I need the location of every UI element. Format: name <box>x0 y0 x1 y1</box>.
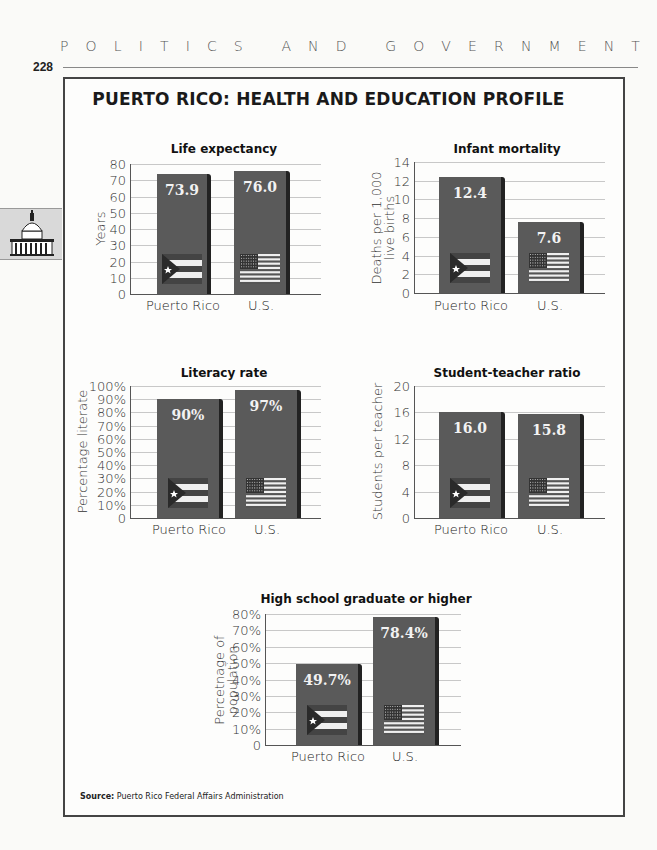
chart-title: Infant mortality <box>453 142 560 156</box>
x-category-label: U.S. <box>537 298 563 313</box>
x-category-label: U.S. <box>392 749 418 764</box>
bar-value-label: 76.0 <box>234 179 286 195</box>
source-label: Source: <box>80 792 114 801</box>
y-axis-label: Percetnage ofpopulation <box>213 610 239 750</box>
page-number: 228 <box>33 60 53 74</box>
x-category-label: Puerto Rico <box>152 522 226 537</box>
bar-puerto-rico: 90% <box>157 399 223 518</box>
running-head-letter: G <box>385 38 396 54</box>
us-flag-icon <box>240 254 280 284</box>
bar-puerto-rico: 73.9 <box>157 174 211 294</box>
bar-value-label: 97% <box>235 398 297 414</box>
plot-area: 49.7% 78.4% <box>265 614 461 746</box>
bar-value-label: 16.0 <box>439 420 501 436</box>
y-tick-label: 20 <box>360 379 410 394</box>
y-axis-label-line: live births <box>383 158 396 298</box>
figure-title: PUERTO RICO: HEALTH AND EDUCATION PROFIL… <box>0 89 657 109</box>
running-head-letter: M <box>548 38 560 54</box>
us-flag-icon <box>246 478 286 508</box>
running-head-letter: A <box>281 38 291 54</box>
x-category-label: Puerto Rico <box>434 298 508 313</box>
y-tick-label: 12 <box>360 431 410 446</box>
x-category-label: Puerto Rico <box>434 522 508 537</box>
bar-us: 78.4% <box>373 617 439 745</box>
running-head-letter: R <box>494 38 504 54</box>
header-rule <box>63 67 638 68</box>
chart-title: High school graduate or higher <box>260 592 471 606</box>
capitol-building-icon <box>0 209 62 259</box>
bar-value-label: 7.6 <box>518 230 580 246</box>
running-head-letter: L <box>114 38 122 54</box>
gridline <box>266 614 461 615</box>
bar-value-label: 15.8 <box>518 422 580 438</box>
us-flag-icon <box>384 705 424 735</box>
y-axis-label: Years <box>94 159 107 299</box>
y-tick-label: 16 <box>360 405 410 420</box>
running-head-letter: P <box>60 38 68 54</box>
running-head-letter: N <box>521 38 531 54</box>
running-head-letter <box>260 38 264 54</box>
plot-area: 73.9 76.0 <box>130 164 321 295</box>
y-tick-label: 0 <box>360 511 410 526</box>
x-category-label: Puerto Rico <box>146 298 220 313</box>
bar-us: 97% <box>235 390 301 518</box>
running-head-letter: T <box>631 38 640 54</box>
plot-area: 12.4 7.6 <box>414 162 605 294</box>
gridline <box>131 386 321 387</box>
us-flag-icon <box>529 253 569 283</box>
bar-value-label: 90% <box>157 407 219 423</box>
us-flag-icon <box>529 478 569 508</box>
y-tick-label: 4 <box>360 484 410 499</box>
puerto-rico-flag-icon <box>450 478 490 508</box>
bar-puerto-rico: 49.7% <box>296 664 362 745</box>
running-head-letter <box>364 38 368 54</box>
running-head-letter: I <box>186 38 190 54</box>
puerto-rico-flag-icon <box>307 705 347 735</box>
puerto-rico-flag-icon <box>168 478 208 508</box>
x-category-label: U.S. <box>248 298 274 313</box>
running-head-letter: V <box>441 38 451 54</box>
gridline <box>415 386 605 387</box>
running-head-letter: N <box>604 38 614 54</box>
y-axis-label: Students per teacher <box>371 382 384 522</box>
gridline <box>131 164 321 165</box>
y-axis-label: Percentage literate <box>76 382 89 522</box>
running-head-letter: I <box>139 38 143 54</box>
running-head-letter: T <box>160 38 169 54</box>
source-text: Puerto Rico Federal Affairs Administrati… <box>117 792 284 801</box>
running-head-letter: C <box>207 38 217 54</box>
running-head-letter: E <box>468 38 477 54</box>
running-head-letter: D <box>336 38 347 54</box>
puerto-rico-flag-icon <box>162 254 202 284</box>
y-tick-label: 8 <box>360 458 410 473</box>
gridline <box>415 162 605 163</box>
source-note: Source: Puerto Rico Federal Affairs Admi… <box>80 792 284 801</box>
x-category-label: Puerto Rico <box>291 749 365 764</box>
bar-us: 76.0 <box>234 171 290 295</box>
y-axis-label-line: population <box>226 610 239 750</box>
chart-title: Student-teacher ratio <box>434 366 581 380</box>
plot-area: 16.0 15.8 <box>414 386 605 519</box>
running-head-letter: E <box>578 38 587 54</box>
bar-puerto-rico: 16.0 <box>439 412 505 518</box>
bar-value-label: 73.9 <box>157 182 207 198</box>
running-head: POLITICS AND GOVERNMENT <box>60 38 640 54</box>
running-head-letter: O <box>86 38 97 54</box>
chart-title: Life expectancy <box>171 142 277 156</box>
bar-value-label: 49.7% <box>296 672 358 688</box>
chart-title: Literacy rate <box>181 366 268 380</box>
x-category-label: U.S. <box>254 522 280 537</box>
running-head-letter: S <box>234 38 243 54</box>
x-category-label: U.S. <box>537 522 563 537</box>
side-tab <box>0 208 62 260</box>
bar-us: 7.6 <box>518 222 584 293</box>
running-head-letter: N <box>308 38 318 54</box>
puerto-rico-flag-icon <box>450 253 490 283</box>
running-head-letter: O <box>413 38 424 54</box>
plot-area: 90% 97% <box>130 386 321 519</box>
bar-value-label: 12.4 <box>439 185 501 201</box>
bar-value-label: 78.4% <box>373 625 435 641</box>
bar-puerto-rico: 12.4 <box>439 177 505 293</box>
y-axis-label: Deaths per 1,000live births <box>370 158 396 298</box>
bar-us: 15.8 <box>518 414 584 518</box>
